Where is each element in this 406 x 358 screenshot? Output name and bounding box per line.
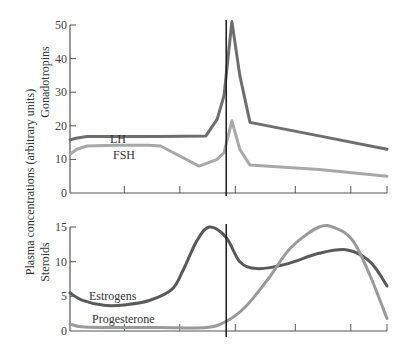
main-y-axis-title: Plasma concentrations (arbitrary units)	[23, 89, 37, 275]
y-tick-label: 0	[61, 186, 67, 200]
top-panel-title: Gonadotropins	[38, 46, 52, 118]
bottom-panel-title: Steroids	[38, 242, 52, 282]
y-tick-label: 40	[55, 52, 67, 66]
y-tick-label: 10	[55, 152, 67, 166]
y-tick-label: 30	[55, 85, 67, 99]
y-tick-label: 15	[55, 220, 67, 234]
fsh-label: FSH	[113, 148, 135, 162]
lh-label: LH	[110, 132, 126, 146]
y-tick-label: 20	[55, 119, 67, 133]
y-tick-label: 0	[61, 324, 67, 338]
estrogens-label: Estrogens	[89, 289, 137, 303]
hormone-chart: Plasma concentrations (arbitrary units) …	[0, 0, 406, 358]
y-tick-label: 50	[55, 18, 67, 32]
y-tick-label: 10	[55, 255, 67, 269]
y-tick-label: 5	[61, 289, 67, 303]
progesterone-label: Progesterone	[92, 312, 155, 326]
gonadotropins-panel: 01020304050	[55, 18, 387, 200]
